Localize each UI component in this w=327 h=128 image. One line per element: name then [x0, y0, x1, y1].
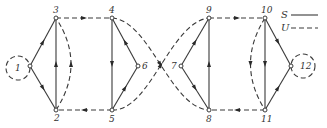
arrow-icon-6-to-4 — [122, 38, 128, 45]
legend-label-u: U — [281, 22, 290, 33]
node-9 — [207, 16, 211, 20]
node-11 — [263, 108, 267, 112]
arrow-icon-7-to-8 — [192, 84, 199, 91]
node-label-7: 7 — [171, 61, 177, 71]
node-7 — [179, 64, 183, 68]
arrow-icon-5-to-2 — [81, 108, 87, 112]
node-label-1: 1 — [15, 63, 21, 73]
arrow-icon-10-to-12 — [275, 38, 281, 45]
arrow-icon-10-to-11 — [263, 61, 267, 67]
arrow-icon-2-to-3 — [54, 61, 58, 67]
node-6 — [136, 64, 140, 68]
arrow-icon-10-to-11 — [248, 61, 252, 67]
legend: S U — [281, 9, 318, 33]
arrow-icon-3-to-4 — [81, 16, 87, 20]
node-label-9: 9 — [206, 5, 212, 15]
arrow-icon-1-to-3 — [40, 38, 46, 45]
node-10 — [263, 16, 267, 20]
arrow-icon-7-to-9 — [192, 38, 198, 45]
node-2 — [54, 108, 58, 112]
arrow-icon-2-to-3 — [69, 61, 73, 67]
node-8 — [207, 108, 211, 112]
node-1 — [28, 64, 32, 68]
arrow-icon-5-to-6 — [122, 84, 128, 91]
arrow-icon-11-to-8 — [234, 108, 240, 112]
node-label-11: 11 — [261, 114, 272, 124]
arrow-icon-8-to-9 — [207, 61, 211, 67]
node-label-2: 2 — [53, 113, 60, 123]
node-label-4: 4 — [108, 5, 115, 15]
node-3 — [54, 16, 58, 20]
arrow-icon-9-to-10 — [234, 16, 240, 20]
node-label-6: 6 — [142, 61, 148, 71]
node-4 — [110, 16, 114, 20]
node-label-3: 3 — [53, 5, 59, 15]
edge-10-to-11-curved — [251, 18, 266, 110]
arrow-icon-4-to-5 — [110, 61, 114, 67]
arrow-icon-11-to-12 — [275, 84, 281, 91]
node-label-8: 8 — [206, 114, 212, 124]
node-label-10: 10 — [261, 5, 273, 15]
node-label-12: 12 — [300, 61, 312, 71]
legend-label-s: S — [281, 9, 288, 20]
node-label-5: 5 — [109, 114, 115, 124]
node-12 — [289, 64, 293, 68]
edges-layer — [30, 16, 291, 112]
network-diagram: 123456789101112 S U — [0, 0, 327, 128]
node-5 — [110, 108, 114, 112]
edge-2-to-3-curved — [56, 18, 71, 110]
arrow-icon-1-to-2 — [40, 84, 46, 91]
